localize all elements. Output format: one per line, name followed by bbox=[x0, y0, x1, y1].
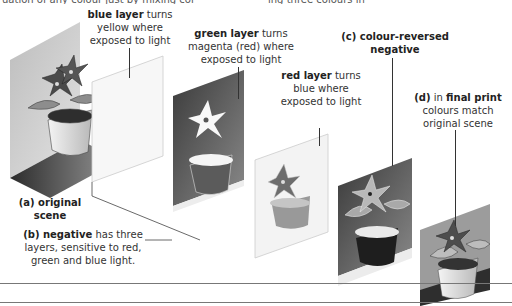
label-text: exposed to light bbox=[90, 35, 171, 46]
label-text: in bbox=[431, 92, 446, 103]
label-text: colours match bbox=[423, 105, 494, 116]
label-text: green and blue light. bbox=[31, 255, 135, 266]
label-text: yellow where bbox=[97, 22, 163, 33]
label-text: magenta (red) where bbox=[188, 41, 294, 52]
colour-reversed-leader bbox=[392, 58, 393, 166]
label-colour-reversed-negative: (c) colour-reversed negative bbox=[340, 30, 450, 56]
label-text: turns bbox=[332, 70, 361, 81]
blue-layer-leader bbox=[129, 48, 130, 78]
label-text: final print bbox=[446, 92, 502, 103]
label-text: turns bbox=[144, 9, 173, 20]
final-print-leader bbox=[455, 130, 456, 226]
label-original-scene: (a) original scene bbox=[10, 196, 90, 222]
green-layer-leader bbox=[238, 67, 239, 99]
divider-rule-bottom bbox=[0, 302, 512, 303]
red-layer-leader bbox=[319, 128, 320, 146]
label-text: (c) colour-reversed bbox=[341, 31, 449, 42]
label-text: (b) negative bbox=[23, 229, 92, 240]
label-text: (d) bbox=[414, 92, 430, 103]
label-text: original scene bbox=[423, 118, 493, 129]
blue-layer-panel bbox=[92, 56, 163, 182]
colour-reversed-negative-panel bbox=[338, 158, 412, 286]
label-green-layer-title: green layer bbox=[194, 28, 258, 39]
label-text: layers, sensitive to red, bbox=[24, 242, 141, 253]
label-text: has three bbox=[92, 229, 143, 240]
label-text: exposed to light bbox=[201, 54, 282, 65]
red-layer-panel bbox=[255, 134, 328, 258]
label-red-layer-title: red layer bbox=[281, 70, 331, 81]
label-blue-layer: blue layer turns yellow where exposed to… bbox=[78, 8, 182, 47]
label-text: (a) original bbox=[19, 197, 81, 208]
label-red-layer: red layer turns blue where exposed to li… bbox=[266, 69, 376, 108]
label-text: scene bbox=[34, 210, 67, 221]
label-text: blue where bbox=[293, 83, 349, 94]
label-negative: (b) negative has three layers, sensitive… bbox=[18, 228, 148, 267]
label-blue-layer-title: blue layer bbox=[88, 9, 144, 20]
label-text: exposed to light bbox=[281, 96, 362, 107]
label-text: turns bbox=[259, 28, 288, 39]
label-green-layer: green layer turns magenta (red) where ex… bbox=[181, 27, 301, 66]
label-final-print: (d) in final print colours match origina… bbox=[408, 91, 508, 130]
green-layer-panel bbox=[173, 70, 244, 212]
label-text: negative bbox=[370, 44, 419, 55]
divider-rule-top bbox=[0, 283, 512, 284]
